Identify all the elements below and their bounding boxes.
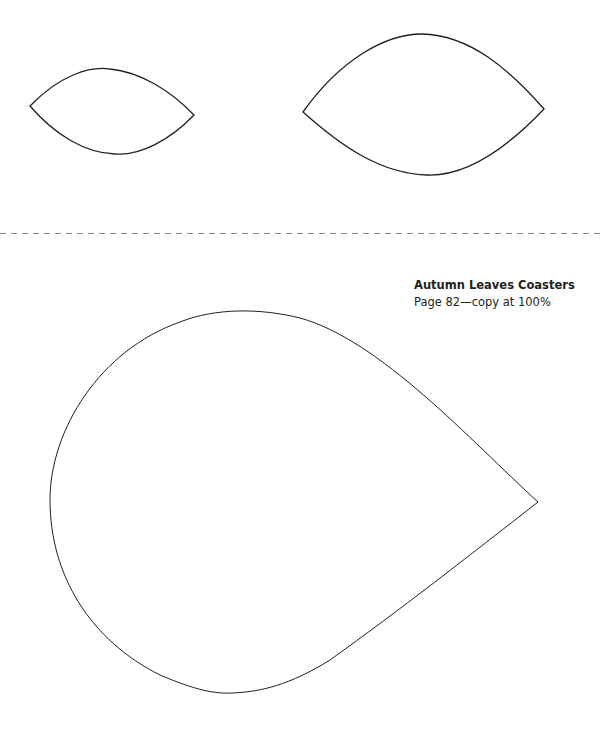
template-caption: Autumn Leaves Coasters Page 82—copy at 1… (414, 277, 575, 311)
small-leaf-template (30, 68, 194, 154)
template-subtitle: Page 82—copy at 100% (414, 294, 575, 311)
template-page (0, 0, 604, 729)
large-leaf-template (303, 34, 544, 175)
teardrop-template (50, 311, 538, 693)
template-title: Autumn Leaves Coasters (414, 277, 575, 294)
